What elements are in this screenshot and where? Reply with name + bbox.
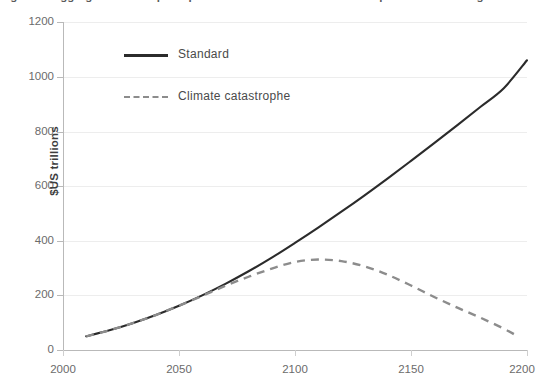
line-chart: 1200 1000 800 600 400 200 0 2000 2050 21… — [0, 0, 549, 384]
series-layer — [0, 0, 549, 384]
series-line-standard — [86, 60, 527, 336]
series-line-climate-catastrophe — [86, 260, 515, 337]
